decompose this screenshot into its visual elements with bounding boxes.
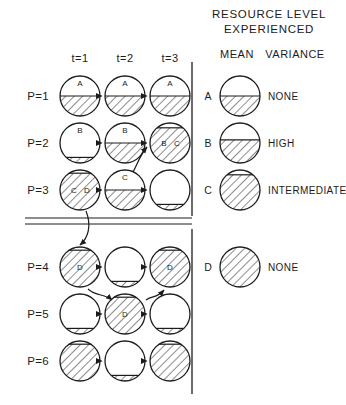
legend-rows: ANONEBHIGHCINTERMEDIATEDNONE xyxy=(204,76,346,287)
cell-P1-t2: A xyxy=(105,76,145,116)
cell-P5-t1 xyxy=(60,294,100,334)
cell-species-label: D xyxy=(167,263,173,272)
column-header-t2: t=2 xyxy=(116,52,133,64)
row-header-P5: P=5 xyxy=(27,308,49,320)
row-header-P3: P=3 xyxy=(27,184,49,196)
grid-row-headers: P=1P=2P=3P=4P=5P=6 xyxy=(27,90,49,367)
legend-column-header-mean: MEAN xyxy=(220,48,254,60)
legend-key-C: C xyxy=(204,184,212,196)
cell-P3-t2: C xyxy=(105,170,145,210)
column-header-t1: t=1 xyxy=(71,52,88,64)
row-header-P4: P=4 xyxy=(27,261,49,273)
legend-swatch-D xyxy=(220,247,260,287)
grid-cells: AAABBBCCDCDDD xyxy=(60,76,190,381)
cell-P1-t1: A xyxy=(60,76,100,116)
row-header-P6: P=6 xyxy=(27,355,49,367)
cell-species-label: D xyxy=(122,310,128,319)
legend-swatch-A xyxy=(220,76,260,116)
cell-P5-t3 xyxy=(150,294,190,334)
cell-P6-t1 xyxy=(60,341,100,381)
legend-key-B: B xyxy=(204,137,211,149)
cell-P6-t3 xyxy=(150,341,190,381)
cell-species-label: C xyxy=(122,173,128,182)
legend-variance-B: HIGH xyxy=(268,138,295,149)
cell-P2-t3: BC xyxy=(150,123,190,163)
legend-column-header-variance: VARIANCE xyxy=(265,48,324,60)
cell-P6-t2 xyxy=(105,341,145,381)
legend-variance-C: INTERMEDIATE xyxy=(268,185,346,196)
row-header-P2: P=2 xyxy=(27,137,49,149)
cell-P2-t2: B xyxy=(105,123,145,163)
legend-titles: RESOURCE LEVEL EXPERIENCED MEAN VARIANCE xyxy=(212,8,326,60)
legend-swatch-B xyxy=(220,123,260,163)
cell-species-label: D xyxy=(77,263,83,272)
legend-swatch-C xyxy=(220,170,260,210)
cell-species-label: A xyxy=(122,79,128,88)
legend-variance-A: NONE xyxy=(268,91,299,102)
cell-P3-t1: CD xyxy=(60,170,100,210)
cell-species-label: A xyxy=(167,79,173,88)
resource-level-diagram: RESOURCE LEVEL EXPERIENCED MEAN VARIANCE… xyxy=(0,0,346,405)
dispersal-arrow-p3t1-to-p4t1 xyxy=(80,211,89,245)
cell-species-label: B xyxy=(122,126,127,135)
figure-title-line2: EXPERIENCED xyxy=(224,23,314,35)
cell-P3-t3 xyxy=(150,170,190,210)
cell-species-label: A xyxy=(77,79,83,88)
cell-P4-t2 xyxy=(105,247,145,287)
cell-P4-t3: D xyxy=(150,247,190,287)
column-header-t3: t=3 xyxy=(161,52,178,64)
figure-title-line1: RESOURCE LEVEL xyxy=(212,8,326,20)
diagram-canvas: RESOURCE LEVEL EXPERIENCED MEAN VARIANCE… xyxy=(0,0,346,405)
cell-species-label: B xyxy=(77,126,82,135)
grid-column-headers: t=1t=2t=3 xyxy=(71,52,178,64)
row-header-P1: P=1 xyxy=(27,90,49,102)
dispersal-arrow-p5t2-to-p4t3 xyxy=(146,290,164,300)
cell-P5-t2: D xyxy=(105,294,145,334)
cell-P1-t3: A xyxy=(150,76,190,116)
legend-key-A: A xyxy=(204,90,211,102)
cell-P2-t1: B xyxy=(60,123,100,163)
legend-variance-D: NONE xyxy=(268,262,299,273)
legend-key-D: D xyxy=(204,261,212,273)
cell-P4-t1: D xyxy=(60,247,100,287)
